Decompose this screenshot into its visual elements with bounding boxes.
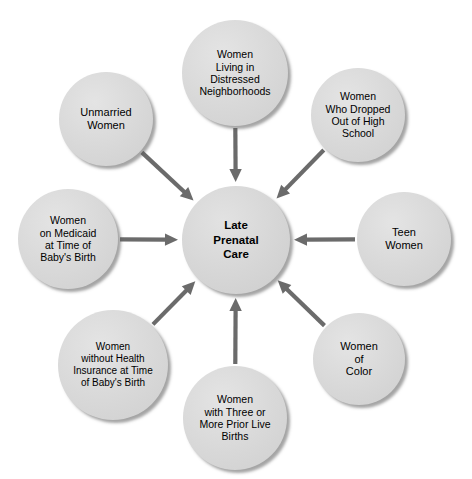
node-label: LatePrenatalCare — [207, 218, 264, 261]
arrow-shaft-women-of-color — [286, 288, 325, 326]
arrow-head-women-on-medicaid-at-time-of-babys-birth — [165, 233, 178, 245]
node-women-with-three-or-more-prior-live-births[interactable]: Womenwith Three orMore Prior LiveBirths — [183, 366, 287, 470]
node-label: Womenwithout HealthInsurance at Timeof B… — [67, 341, 158, 388]
node-women-without-health-insurance-at-time-of-babys-birth[interactable]: Womenwithout HealthInsurance at Timeof B… — [58, 310, 168, 420]
node-label: WomenLiving inDistressedNeighborhoods — [193, 48, 276, 98]
arrow-shaft-unmarried-women — [142, 152, 186, 193]
node-label: TeenWomen — [379, 226, 429, 252]
center-node-late-prenatal-care[interactable]: LatePrenatalCare — [182, 186, 290, 294]
diagram-canvas: LatePrenatalCareWomenLiving inDistressed… — [0, 0, 472, 479]
node-women-who-dropped-out-of-high-school[interactable]: WomenWho DroppedOut of HighSchool — [311, 68, 405, 162]
node-label: WomenofColor — [334, 340, 384, 379]
node-label: UnmarriedWomen — [74, 106, 137, 132]
node-teen-women[interactable]: TeenWomen — [357, 192, 451, 286]
node-label: Womenon Medicaidat Time ofBaby's Birth — [34, 214, 103, 264]
arrow-head-teen-women — [294, 233, 307, 245]
arrow-shaft-women-who-dropped-out-of-high-school — [284, 150, 324, 191]
arrow-shaft-women-without-health-insurance-at-time-of-babys-birth — [153, 289, 188, 324]
node-label: Womenwith Three orMore Prior LiveBirths — [193, 393, 276, 443]
node-women-on-medicaid-at-time-of-babys-birth[interactable]: Womenon Medicaidat Time ofBaby's Birth — [18, 189, 118, 289]
node-label: WomenWho DroppedOut of HighSchool — [320, 90, 397, 140]
node-unmarried-women[interactable]: UnmarriedWomen — [59, 72, 153, 166]
node-women-living-in-distressed-neighborhoods[interactable]: WomenLiving inDistressedNeighborhoods — [182, 20, 288, 126]
arrow-head-women-living-in-distressed-neighborhoods — [229, 169, 241, 182]
arrow-head-women-with-three-or-more-prior-live-births — [229, 298, 241, 311]
node-women-of-color[interactable]: WomenofColor — [313, 313, 405, 405]
